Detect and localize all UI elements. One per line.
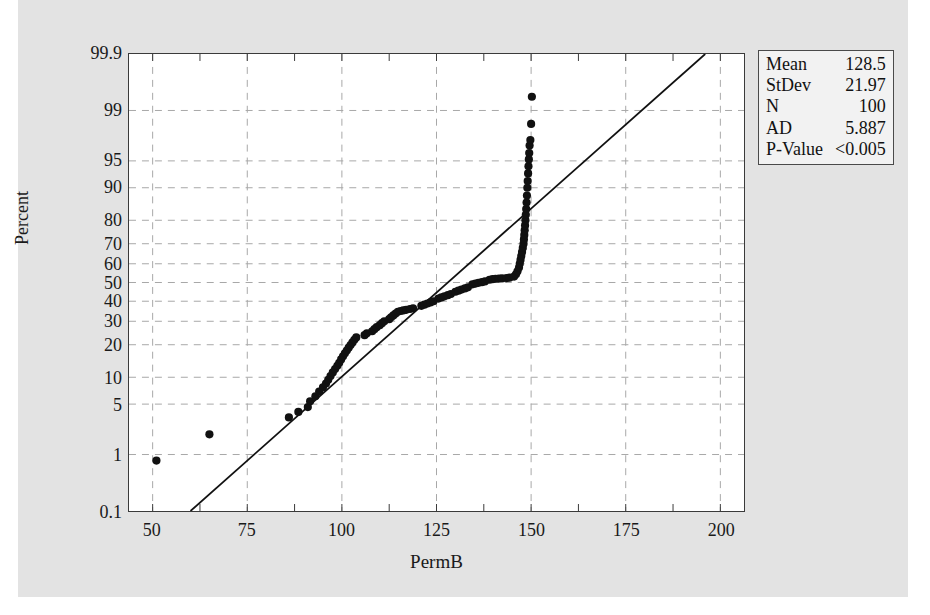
- statistics-row: StDev21.97: [766, 75, 886, 96]
- statistic-label: StDev: [766, 75, 835, 96]
- x-tick-label: 100: [328, 520, 355, 541]
- statistic-value: 21.97: [835, 75, 886, 96]
- y-tick-label: 95: [104, 151, 122, 169]
- y-tick-label: 50: [104, 274, 122, 292]
- statistics-row: Mean128.5: [766, 54, 886, 75]
- y-tick-label: 5: [113, 396, 122, 414]
- statistic-label: N: [766, 96, 835, 117]
- y-tick-label: 1: [113, 446, 122, 464]
- y-tick-label: 70: [104, 235, 122, 253]
- y-tick-label: 90: [104, 178, 122, 196]
- statistics-table: Mean128.5StDev21.97N100AD5.887P-Value<0.…: [766, 54, 886, 160]
- x-tick-label: 125: [423, 520, 450, 541]
- y-axis-tick-labels: 0.115102030405060708090959999.9: [38, 53, 122, 512]
- statistics-box: Mean128.5StDev21.97N100AD5.887P-Value<0.…: [758, 50, 894, 165]
- data-points: [152, 93, 536, 465]
- x-axis-title: PermB: [128, 551, 745, 573]
- y-tick-label: 0.1: [100, 503, 123, 521]
- statistics-row: N100: [766, 96, 886, 117]
- x-tick-label: 200: [708, 520, 735, 541]
- statistics-row: P-Value<0.005: [766, 139, 886, 160]
- y-tick-label: 99: [104, 101, 122, 119]
- x-tick-label: 50: [143, 520, 161, 541]
- x-axis-tick-labels: 5075100125150175200: [128, 520, 745, 546]
- plot-area: [128, 53, 745, 512]
- x-tick-label: 75: [238, 520, 256, 541]
- statistic-label: P-Value: [766, 139, 835, 160]
- y-tick-label: 40: [104, 292, 122, 310]
- statistic-label: AD: [766, 118, 835, 139]
- x-tick-label: 150: [518, 520, 545, 541]
- y-axis-title: Percent: [12, 191, 33, 245]
- y-tick-label: 30: [104, 312, 122, 330]
- y-tick-label: 99.9: [91, 44, 123, 62]
- gridlines: [129, 54, 744, 511]
- y-tick-label: 20: [104, 336, 122, 354]
- figure-panel: Percent 0.115102030405060708090959999.9 …: [18, 0, 908, 597]
- statistic-value: 5.887: [835, 118, 886, 139]
- statistic-label: Mean: [766, 54, 835, 75]
- statistic-value: 128.5: [835, 54, 886, 75]
- y-tick-label: 60: [104, 255, 122, 273]
- y-tick-label: 80: [104, 211, 122, 229]
- statistics-row: AD5.887: [766, 118, 886, 139]
- statistic-value: <0.005: [835, 139, 886, 160]
- y-tick-label: 10: [104, 369, 122, 387]
- x-tick-label: 175: [613, 520, 640, 541]
- plot-canvas: [129, 54, 744, 511]
- statistic-value: 100: [835, 96, 886, 117]
